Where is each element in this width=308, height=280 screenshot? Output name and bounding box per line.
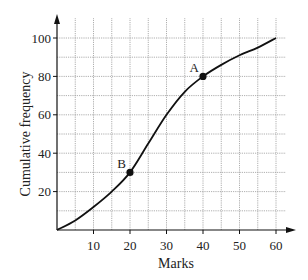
x-tick-label: 60 (270, 238, 283, 253)
point-label-b: B (117, 156, 126, 171)
point-marker-b (126, 169, 133, 176)
tick-labels: 10203040506020406080100 (32, 31, 283, 254)
x-tick-label: 10 (87, 238, 100, 253)
x-tick-label: 20 (124, 238, 137, 253)
y-tick-label: 80 (38, 69, 51, 84)
y-tick-label: 100 (32, 31, 52, 46)
x-axis-label: Marks (158, 256, 194, 271)
cumulative-frequency-chart: 10203040506020406080100 AB Marks Cumulat… (0, 0, 308, 280)
point-marker-a (199, 73, 206, 80)
point-label-a: A (190, 60, 200, 75)
x-tick-label: 40 (197, 238, 210, 253)
x-tick-label: 30 (160, 238, 173, 253)
annotated-points: AB (117, 60, 206, 176)
y-tick-label: 40 (38, 146, 51, 161)
x-axis-arrow-icon (286, 227, 296, 233)
y-tick-label: 60 (38, 107, 51, 122)
x-tick-label: 50 (233, 238, 246, 253)
y-axis-arrow-icon (54, 14, 60, 24)
y-tick-label: 20 (38, 184, 51, 199)
y-axis-label: Cumulative frequency (18, 72, 33, 197)
